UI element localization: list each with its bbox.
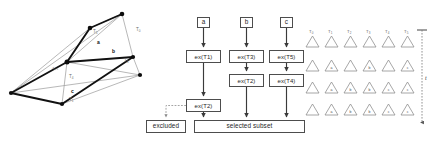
triangle-row-2: a b b c c: [306, 82, 414, 93]
triangle-cell-r2c5: c: [407, 88, 409, 92]
input-box-c[interactable]: c: [280, 17, 293, 28]
triangle-header-t1: T1: [328, 29, 333, 35]
stage-box-ex-t4[interactable]: ex(T4): [269, 74, 304, 87]
input-box-b[interactable]: b: [240, 17, 253, 28]
triangle-header-t0: T0: [309, 29, 314, 35]
triangle-header-labels: T0 T1 T2 T3 T4 T5: [309, 29, 409, 35]
graph-label-t0-upper: T0: [136, 27, 141, 33]
graph-edge-labels: T5 T0 T3 T0 T4 T1 a b c: [51, 27, 140, 103]
input-box-a[interactable]: a: [197, 17, 210, 28]
triangle-cell-r2c3: b: [369, 88, 371, 92]
triangle-header-t3: T3: [366, 29, 371, 35]
triangle-header-row: [306, 36, 414, 47]
triangle-header-t2: T2: [347, 29, 352, 35]
triangle-cell-r1c3: b: [369, 66, 371, 70]
triangle-cell-r1c5: c: [407, 66, 409, 70]
time-axis: t: [417, 30, 427, 123]
graph-nodes: [9, 12, 142, 106]
output-box-excluded[interactable]: excluded: [146, 120, 186, 133]
figure-root: T5 T0 T3 T0 T4 T1 a b c: [0, 0, 446, 142]
triangle-cell-r2c2: b: [350, 88, 352, 92]
triangle-row-3: a b b c c: [306, 104, 414, 115]
graph-thin-edges: [11, 14, 140, 104]
output-box-selected-subset[interactable]: selected subset: [194, 120, 305, 133]
graph-label-t1: T1: [69, 97, 74, 103]
stage-box-ex-t2-bottom[interactable]: ex(T2): [186, 99, 221, 112]
stage-box-ex-t1[interactable]: ex(T1): [186, 50, 221, 63]
flowchart-arrows: [166, 28, 287, 117]
graph-label-a: a: [97, 39, 100, 45]
stage-box-ex-t3[interactable]: ex(T3): [229, 50, 264, 63]
triangle-cell-r3c1: a: [331, 110, 333, 114]
graph-panel: T5 T0 T3 T0 T4 T1 a b c: [9, 12, 142, 106]
graph-label-b: b: [112, 48, 115, 54]
triangle-cell-r3c3: b: [369, 110, 371, 114]
stage-box-ex-t2-middle[interactable]: ex(T2): [229, 74, 264, 87]
triangle-header-t5: T5: [404, 29, 409, 35]
triangle-cell-r1c1: a: [331, 66, 333, 70]
triangle-grid: T0 T1 T2 T3 T4 T5 a b c: [306, 29, 414, 115]
triangle-cell-r3c5: c: [407, 110, 409, 114]
triangle-cell-r2c4: c: [388, 88, 390, 92]
graph-label-c: c: [71, 88, 74, 94]
triangle-cell-r3c4: c: [388, 110, 390, 114]
arrow-exT2b-to-excluded: [166, 106, 186, 118]
triangle-header-t4: T4: [385, 29, 390, 35]
triangle-cell-r3c2: b: [350, 110, 352, 114]
triangle-row-1: a b c: [306, 60, 414, 71]
triangle-cell-r2c1: a: [331, 88, 333, 92]
graph-label-t4: T4: [69, 74, 74, 80]
time-axis-label: t: [425, 75, 427, 81]
stage-box-ex-t5[interactable]: ex(T5): [269, 50, 304, 63]
